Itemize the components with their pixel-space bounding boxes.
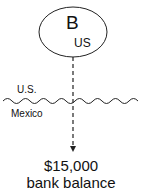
result-amount: $15,000 <box>0 157 142 174</box>
result-description: bank balance <box>0 174 142 191</box>
arrowhead-icon <box>70 146 76 152</box>
border-upper-label: U.S. <box>17 84 36 95</box>
entity-letter: B <box>66 12 79 34</box>
entity-country: US <box>74 36 91 50</box>
border-lower-label: Mexico <box>11 108 43 119</box>
border-wavy-line <box>3 99 138 104</box>
